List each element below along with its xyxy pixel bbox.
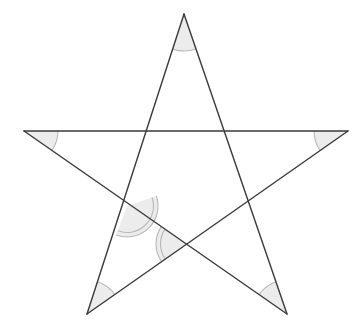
pentagram-diagram [0,0,362,332]
geometry-figure-canvas [0,0,362,332]
